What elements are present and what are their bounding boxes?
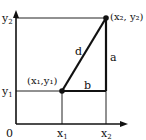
x2-tick-label: x2 (101, 127, 112, 140)
point-1-label: (x₁,y₁) (27, 75, 57, 86)
segment-d-label: d (75, 45, 82, 58)
point-2-label: (x₂, y₂) (110, 11, 144, 22)
point-1 (59, 88, 65, 94)
segment-b-label: b (84, 79, 91, 92)
segment-a-label: a (110, 51, 117, 64)
y-axis-arrow-icon (13, 10, 19, 18)
y2-tick-label: y2 (1, 12, 13, 26)
x1-tick-label: x1 (57, 127, 68, 140)
x-axis-arrow-icon (120, 121, 128, 127)
distance-diagram: (x₂, y₂) (x₁,y₁) d a b 0 x1 x2 y2 y1 (0, 0, 146, 140)
origin-label: 0 (6, 127, 13, 140)
y1-tick-label: y1 (1, 85, 13, 99)
point-2 (103, 15, 109, 21)
